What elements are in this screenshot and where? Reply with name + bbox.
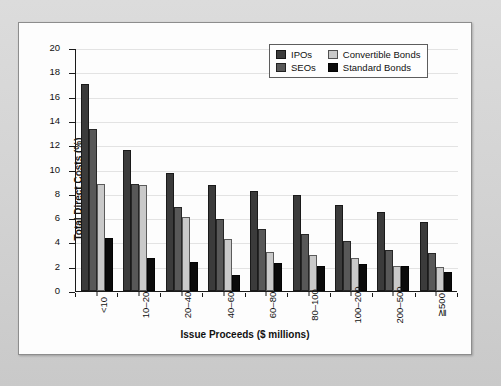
legend-item: Standard Bonds: [328, 62, 421, 73]
x-axis-tick-label: 200–500: [393, 287, 404, 324]
bar: [224, 239, 232, 291]
x-axis-tick-label: 100–200: [351, 287, 362, 324]
legend-swatch: [276, 50, 286, 59]
bar: [436, 267, 444, 291]
y-axis-tick-label: 0: [55, 285, 60, 296]
x-axis-minor-tick: [117, 293, 118, 297]
x-axis-tick: 20–40: [181, 291, 182, 296]
x-axis-tick-label: 40–60: [224, 292, 235, 318]
x-axis-minor-tick: [287, 293, 288, 297]
bar-group: ≧500: [415, 49, 457, 291]
bar: [97, 184, 105, 291]
bar: [309, 255, 317, 291]
y-axis-tick: 18: [69, 73, 75, 74]
bar: [174, 207, 182, 291]
x-axis-tick-label: 10–20: [139, 292, 150, 318]
y-axis-tick-label: 2: [55, 261, 60, 272]
y-axis-tick-label: 12: [49, 139, 60, 150]
bar-group: 20–40: [161, 49, 203, 291]
bar-group: 100–200: [330, 49, 372, 291]
x-axis-minor-tick: [415, 293, 416, 297]
bar: [131, 184, 139, 291]
bar: [208, 185, 216, 291]
legend-label: Standard Bonds: [343, 62, 411, 73]
y-axis-tick: 4: [69, 243, 75, 244]
y-axis-tick: 2: [69, 268, 75, 269]
bar-group: <10: [76, 49, 118, 291]
bar: [182, 217, 190, 291]
legend-item: Convertible Bonds: [328, 49, 421, 60]
bar-group: 10–20: [118, 49, 160, 291]
legend-label: Convertible Bonds: [343, 49, 421, 60]
x-axis-minor-tick: [457, 293, 458, 297]
bar: [301, 234, 309, 291]
x-axis-minor-tick: [202, 293, 203, 297]
x-axis-tick: <10: [97, 291, 98, 296]
bar: [428, 253, 436, 291]
y-axis-tick-label: 14: [49, 115, 60, 126]
bar: [317, 266, 325, 292]
y-axis-tick-label: 18: [49, 66, 60, 77]
bar: [274, 263, 282, 291]
x-axis-minor-tick: [160, 293, 161, 297]
bar: [293, 195, 301, 291]
bar: [123, 150, 131, 291]
y-axis-tick: 12: [69, 146, 75, 147]
x-axis-tick-label: 60–80: [266, 292, 277, 318]
x-axis-tick-label: ≧500: [436, 293, 447, 317]
x-axis-minor-tick: [330, 293, 331, 297]
bar: [444, 272, 452, 291]
y-axis-tick-label: 20: [49, 42, 60, 53]
bar: [343, 241, 351, 291]
bar: [420, 222, 428, 291]
x-axis-tick: ≧500: [435, 291, 436, 296]
x-axis-tick: 60–80: [266, 291, 267, 296]
x-axis-minor-tick: [75, 293, 76, 297]
y-axis-tick-label: 8: [55, 188, 60, 199]
y-axis-tick-label: 4: [55, 236, 60, 247]
x-axis-tick: 100–200: [351, 291, 352, 296]
y-axis-tick-label: 6: [55, 212, 60, 223]
legend-swatch: [276, 63, 286, 72]
plot-area: 20181614121086420 <1010–2020–4040–6060–8…: [75, 49, 457, 292]
bar: [166, 173, 174, 291]
legend-item: SEOs: [276, 62, 316, 73]
y-axis-tick: 6: [69, 219, 75, 220]
y-axis-tick: 20: [69, 49, 75, 50]
y-axis-tick: 16: [69, 98, 75, 99]
x-axis-tick: 40–60: [224, 291, 225, 296]
x-axis-minor-tick: [245, 293, 246, 297]
y-axis-tick-label: 10: [49, 164, 60, 175]
bar: [147, 258, 155, 291]
scanned-page: Total Direct Costs (%) 20181614121086420…: [0, 0, 501, 386]
bar: [105, 238, 113, 291]
legend-swatch: [328, 50, 338, 59]
x-axis-minor-tick: [372, 293, 373, 297]
figure-panel: Total Direct Costs (%) 20181614121086420…: [18, 22, 472, 355]
bar-group: 40–60: [203, 49, 245, 291]
bar: [232, 275, 240, 291]
chart-legend: IPOsConvertible BondsSEOsStandard Bonds: [269, 44, 428, 78]
bar: [216, 219, 224, 291]
y-axis-tick-label: 16: [49, 91, 60, 102]
x-axis-tick-label: 20–40: [182, 292, 193, 318]
bar: [266, 252, 274, 291]
x-axis-tick-label: 80–100: [309, 289, 320, 321]
y-axis-tick: 10: [69, 171, 75, 172]
bar-group: 200–500: [372, 49, 414, 291]
bar-group: 60–80: [245, 49, 287, 291]
x-axis-tick: 80–100: [308, 291, 309, 296]
bar: [190, 262, 198, 291]
bar: [81, 84, 89, 291]
bar: [385, 250, 393, 291]
bar-groups: <1010–2020–4040–6060–8080–100100–200200–…: [76, 49, 457, 291]
x-axis-tick: 10–20: [139, 291, 140, 296]
legend-swatch: [328, 63, 338, 72]
legend-label: IPOs: [291, 49, 312, 60]
x-axis-tick-label: <10: [97, 297, 108, 313]
bar: [258, 229, 266, 291]
x-axis-tick: 200–500: [393, 291, 394, 296]
y-axis-tick: 8: [69, 195, 75, 196]
bar-group: 80–100: [288, 49, 330, 291]
bar: [377, 212, 385, 291]
